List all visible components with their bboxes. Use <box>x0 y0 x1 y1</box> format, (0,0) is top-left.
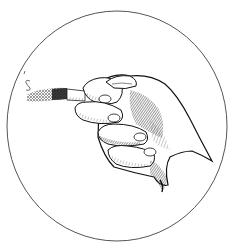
smoke-icon <box>24 71 30 90</box>
hand <box>75 75 212 192</box>
hand-cigarette-illustration <box>0 0 232 245</box>
cigarette-ash <box>27 88 67 102</box>
illustration-canvas <box>0 0 232 245</box>
